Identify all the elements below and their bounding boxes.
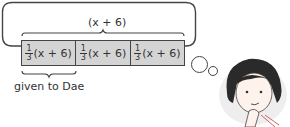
fraction: 13: [25, 45, 32, 62]
tape-segment: 13 (x + 6): [22, 41, 75, 65]
tape-diagram: 13 (x + 6) 13 (x + 6) 13 (x + 6): [21, 40, 185, 66]
given-to-dae-label: given to Dae: [14, 80, 84, 93]
thought-circle-large: [191, 56, 208, 73]
tape-segment: 13 (x + 6): [75, 41, 129, 65]
bottom-brace: [22, 71, 76, 77]
total-label: (x + 6): [88, 16, 126, 29]
tape-segment: 13 (x + 6): [130, 41, 184, 65]
fraction: 13: [80, 45, 87, 62]
thinking-girl-illustration: [215, 45, 290, 127]
fraction: 13: [134, 45, 141, 62]
